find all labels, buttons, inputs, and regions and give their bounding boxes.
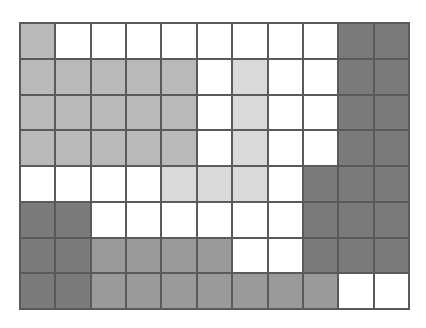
- grid-cell: [127, 239, 160, 273]
- grid-cell: [162, 167, 195, 201]
- grid-cell: [233, 239, 266, 273]
- grid-cell: [233, 24, 266, 58]
- grid-cell: [92, 131, 125, 165]
- grid-cell: [92, 167, 125, 201]
- grid-cell: [304, 96, 337, 130]
- grid-cell: [21, 131, 54, 165]
- grid-cell: [304, 239, 337, 273]
- grid-cell: [198, 274, 231, 308]
- grid-cell: [304, 203, 337, 237]
- grid-cell: [375, 203, 408, 237]
- grid-cell: [375, 239, 408, 273]
- grid-cell: [339, 131, 372, 165]
- grid-cell: [233, 60, 266, 94]
- grid-cell: [375, 24, 408, 58]
- grid-cell: [92, 274, 125, 308]
- grid-cell: [198, 60, 231, 94]
- grid-cell: [162, 274, 195, 308]
- grid-cell: [304, 60, 337, 94]
- grid-cell: [375, 96, 408, 130]
- grid-cell: [198, 24, 231, 58]
- grid-cell: [127, 96, 160, 130]
- grid-cell: [92, 24, 125, 58]
- grid-cell: [127, 274, 160, 308]
- grid-cell: [198, 131, 231, 165]
- grid-cell: [127, 203, 160, 237]
- grid-cell: [92, 96, 125, 130]
- grid-cell: [56, 96, 89, 130]
- grid-cell: [21, 274, 54, 308]
- grid-cell: [269, 24, 302, 58]
- grid-cell: [269, 167, 302, 201]
- grid-cell: [127, 60, 160, 94]
- grid-cell: [339, 239, 372, 273]
- grid-cell: [269, 239, 302, 273]
- grid-cell: [56, 24, 89, 58]
- grid-cell: [127, 131, 160, 165]
- grid-cell: [21, 167, 54, 201]
- grid-cell: [162, 131, 195, 165]
- grid-cell: [56, 239, 89, 273]
- grid-cell: [21, 96, 54, 130]
- grid-cell: [233, 131, 266, 165]
- grid-cell: [339, 167, 372, 201]
- grid-cell: [269, 274, 302, 308]
- grid-cell: [198, 167, 231, 201]
- grid-cell: [339, 96, 372, 130]
- grid-cell: [304, 274, 337, 308]
- grid-cell: [92, 203, 125, 237]
- grid-cell: [304, 24, 337, 58]
- grid-cell: [233, 96, 266, 130]
- grid-cell: [198, 203, 231, 237]
- grid-cell: [21, 203, 54, 237]
- grid-cell: [198, 239, 231, 273]
- grid-cell: [162, 96, 195, 130]
- grid-cell: [56, 167, 89, 201]
- grid-cell: [304, 167, 337, 201]
- grid-cell: [375, 131, 408, 165]
- grid-cell: [21, 239, 54, 273]
- grid-cell: [339, 24, 372, 58]
- grid-cell: [162, 24, 195, 58]
- shaded-grid: [19, 22, 410, 310]
- grid-cell: [56, 131, 89, 165]
- grid-cell: [269, 203, 302, 237]
- grid-cell: [21, 60, 54, 94]
- grid-cell: [233, 203, 266, 237]
- grid-cell: [339, 274, 372, 308]
- grid-cell: [233, 167, 266, 201]
- grid-cell: [56, 60, 89, 94]
- grid-cell: [375, 167, 408, 201]
- grid-cell: [339, 60, 372, 94]
- grid-cell: [269, 96, 302, 130]
- grid-cell: [127, 167, 160, 201]
- grid-cell: [304, 131, 337, 165]
- grid-cell: [339, 203, 372, 237]
- grid-cell: [56, 274, 89, 308]
- grid-cell: [198, 96, 231, 130]
- grid-cell: [92, 239, 125, 273]
- grid-cell: [233, 274, 266, 308]
- grid-cell: [375, 274, 408, 308]
- grid-cell: [127, 24, 160, 58]
- grid-cell: [162, 203, 195, 237]
- grid-cell: [162, 60, 195, 94]
- grid-cell: [269, 131, 302, 165]
- grid-cell: [375, 60, 408, 94]
- grid-cell: [162, 239, 195, 273]
- grid-cell: [56, 203, 89, 237]
- grid-cell: [21, 24, 54, 58]
- grid-cell: [269, 60, 302, 94]
- grid-cell: [92, 60, 125, 94]
